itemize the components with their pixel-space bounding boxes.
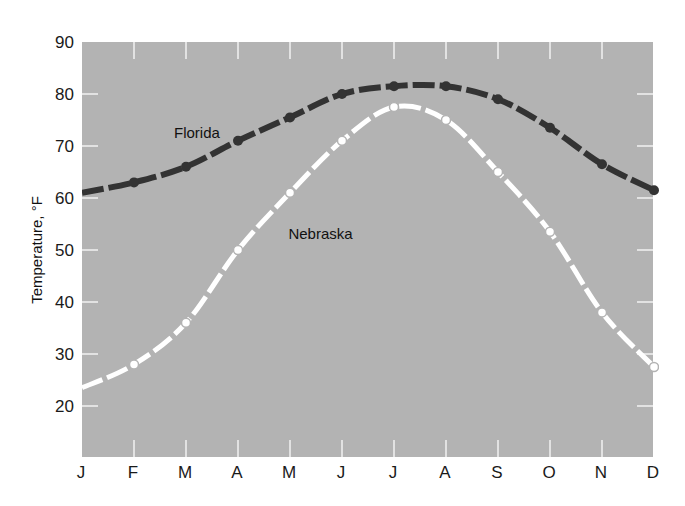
x-tick-label: S [491, 463, 502, 482]
data-point-marker [285, 112, 295, 122]
x-tick-label: J [389, 463, 398, 482]
data-point-marker [597, 159, 607, 169]
x-tick-label: A [231, 463, 243, 482]
y-tick-label: 40 [55, 293, 74, 312]
y-tick-label: 20 [55, 397, 74, 416]
y-tick-label: 90 [55, 33, 74, 52]
x-axis-tick-labels: JFMAMJJASOND [77, 463, 659, 482]
y-tick-label: 70 [55, 137, 74, 156]
data-point-marker [649, 185, 659, 195]
series-label-nebraska: Nebraska [288, 225, 353, 242]
y-tick-label: 60 [55, 189, 74, 208]
x-tick-label: M [178, 463, 192, 482]
data-point-marker [130, 360, 139, 369]
x-tick-label: O [542, 463, 555, 482]
x-tick-label: J [337, 463, 346, 482]
x-tick-label: N [595, 463, 607, 482]
x-tick-label: A [439, 463, 451, 482]
data-point-marker [338, 136, 347, 145]
y-axis-title: Temperature, °F [28, 196, 45, 304]
data-point-marker [337, 89, 347, 99]
data-point-marker [389, 81, 399, 91]
y-tick-label: 80 [55, 85, 74, 104]
data-point-marker [234, 246, 243, 255]
temperature-chart: 2030405060708090 JFMAMJJASOND Temperatur… [0, 0, 685, 506]
data-point-marker [441, 81, 451, 91]
data-point-marker [286, 188, 295, 197]
y-tick-label: 30 [55, 345, 74, 364]
data-point-marker [182, 318, 191, 327]
data-point-marker [129, 177, 139, 187]
data-point-marker [494, 168, 503, 177]
data-point-marker [390, 103, 399, 112]
data-point-marker [650, 363, 659, 372]
series-label-florida: Florida [174, 124, 221, 141]
x-tick-label: J [77, 463, 86, 482]
x-tick-label: F [128, 463, 138, 482]
y-axis-tick-labels: 2030405060708090 [55, 33, 74, 416]
data-point-marker [233, 136, 243, 146]
data-point-marker [546, 227, 555, 236]
data-point-marker [442, 116, 451, 125]
data-point-marker [545, 123, 555, 133]
data-point-marker [181, 162, 191, 172]
plot-area [82, 42, 653, 457]
data-point-marker [598, 308, 607, 317]
y-tick-label: 50 [55, 241, 74, 260]
x-tick-label: D [647, 463, 659, 482]
x-tick-label: M [282, 463, 296, 482]
data-point-marker [493, 94, 503, 104]
